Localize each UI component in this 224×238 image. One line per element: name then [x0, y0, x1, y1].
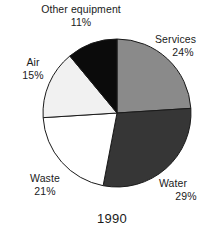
pie-label-services: Services 24%: [155, 33, 221, 59]
pie-slices: [43, 39, 191, 187]
pie-label-other-equipment-value: 11%: [25, 16, 137, 29]
pie-label-other-equipment-name: Other equipment: [25, 3, 137, 16]
pie-label-other-equipment: Other equipment 11%: [25, 3, 137, 29]
pie-label-air-value: 15%: [5, 69, 61, 82]
pie-label-air-name: Air: [5, 56, 61, 69]
pie-label-waste-value: 21%: [14, 185, 76, 198]
pie-chart-figure: Other equipment 11% Services 24% Water 2…: [0, 0, 224, 238]
pie-label-water: Water 29%: [159, 177, 221, 203]
pie-label-waste-name: Waste: [14, 172, 76, 185]
chart-title: 1990: [0, 211, 224, 226]
pie-label-services-name: Services: [155, 33, 221, 46]
pie-label-air: Air 15%: [5, 56, 61, 82]
pie-label-water-name: Water: [159, 177, 221, 190]
pie-slice-water: [103, 108, 191, 187]
pie-label-water-value: 29%: [159, 190, 213, 203]
pie-label-waste: Waste 21%: [14, 172, 76, 198]
pie-label-services-value: 24%: [155, 46, 211, 59]
